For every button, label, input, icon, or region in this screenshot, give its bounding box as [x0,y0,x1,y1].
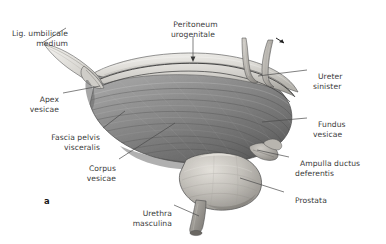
label-urethra-masculina: Urethramasculina [92,200,172,228]
label-corpus-vesicae: Corpusvesicae [46,155,116,183]
label-lig-umbilicale-medium: Lig. umbilicalemedium [0,20,68,48]
label-ureter-sinister: Uretersinister [313,63,385,91]
label-prostata: Prostata [290,187,360,206]
label-peritoneum-urogenitale: Peritoneumurogenitale [143,11,243,39]
label-ampulla-ductus-deferentis: Ampulla ductusdeferentis [295,150,386,178]
label-fascia-pelvis-visceralis: Fascia pelvisvisceralis [12,124,100,152]
figure-panel-label: a [44,196,50,206]
label-fundus-vesicae: Fundusvesicae [313,111,385,139]
urethra-masculina-stub [190,200,206,236]
label-apex-vesicae: Apexvesicae [0,86,59,114]
